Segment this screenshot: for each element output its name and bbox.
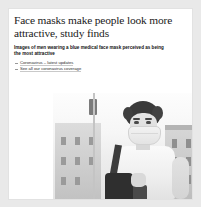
window-icon [75,177,80,185]
article-figure: In the pandemic began, we may find the v… [53,93,193,200]
eye-right [146,121,151,124]
window-icon [61,137,66,145]
related-links-list: Coronavirus – latest updates See all our… [14,60,187,72]
eyebrow-right [145,118,152,120]
window-icon [61,177,66,185]
article-page: Face masks make people look more attract… [8,8,193,200]
page-title: Face masks make people look more attract… [14,14,186,39]
street-pole [93,93,95,199]
face-mask [128,126,161,145]
article-standfirst: Images of men wearing a blue medical fac… [14,45,164,57]
article-body: Face masks make people look more attract… [9,9,192,72]
window-icon [61,157,66,165]
list-item[interactable]: See all our coronavirus coverage [14,66,187,72]
window-icon [186,139,191,148]
link-coronavirus-coverage[interactable]: See all our coronavirus coverage [20,66,81,72]
photo-caption: In the pandemic began, we may find the v… [53,199,193,200]
window-icon [75,157,80,165]
phone [133,185,147,199]
arm [172,157,189,199]
eye-left [134,121,139,124]
backpack [105,173,133,199]
window-icon [75,137,80,145]
eyebrow-left [133,118,140,120]
hand [131,173,146,187]
article-photo [53,93,193,199]
masked-man-subject [109,101,185,199]
